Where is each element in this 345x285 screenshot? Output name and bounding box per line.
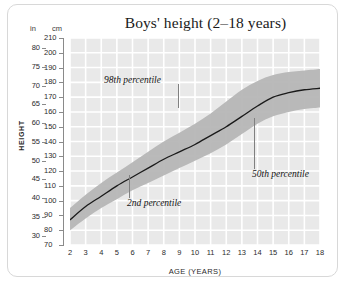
y-tick-label-in: 40 <box>24 194 40 202</box>
x-tick-label: 16 <box>282 248 296 257</box>
y-tick-label-cm: 200 <box>44 49 59 57</box>
unit-label-centimeters: cm <box>52 24 62 33</box>
y-tick-cm <box>59 215 64 216</box>
y-tick-cm <box>59 127 64 128</box>
y-tick-cm <box>59 142 64 143</box>
x-tick-label: 2 <box>63 248 77 257</box>
y-tick-cm <box>59 156 64 157</box>
unit-label-inches: in <box>30 24 36 33</box>
chart-card: Boys' height (2–18 years) in cm HEIGHT A… <box>7 4 338 277</box>
y-tick-label-cm: 90 <box>44 211 59 219</box>
y-tick-label-cm: 210 <box>44 34 59 42</box>
annotation-50th-percentile: 50th percentile <box>252 169 309 179</box>
x-tick-label: 5 <box>110 248 124 257</box>
x-tick-label: 6 <box>126 248 140 257</box>
y-tick-in <box>42 48 46 49</box>
y-tick-in <box>42 142 46 143</box>
x-tick-label: 10 <box>188 248 202 257</box>
y-tick-label-cm: 120 <box>44 167 59 175</box>
y-tick-in <box>42 198 46 199</box>
y-tick-label-cm: 70 <box>44 241 59 249</box>
y-tick-in <box>42 104 46 105</box>
y-tick-in <box>42 67 46 68</box>
x-tick-label: 12 <box>219 248 233 257</box>
y-tick-in <box>42 179 46 180</box>
y-tick-label-in: 70 <box>24 82 40 90</box>
y-tick-label-in: 80 <box>24 44 40 52</box>
y-tick-in <box>42 86 46 87</box>
x-tick-label: 3 <box>79 248 93 257</box>
y-tick-cm <box>59 201 64 202</box>
y-tick-label-in: 75 <box>24 63 40 71</box>
x-tick-label: 18 <box>313 248 327 257</box>
y-tick-label-cm: 190 <box>44 64 59 72</box>
x-tick-label: 7 <box>141 248 155 257</box>
y-tick-cm <box>59 230 64 231</box>
y-tick-in <box>42 217 46 218</box>
y-tick-label-cm: 170 <box>44 93 59 101</box>
annotation-98th-percentile: 98th percentile <box>104 75 161 85</box>
y-tick-label-in: 30 <box>24 232 40 240</box>
y-tick-cm <box>59 38 64 39</box>
y-tick-label-cm: 160 <box>44 108 59 116</box>
x-tick-label: 17 <box>297 248 311 257</box>
y-tick-cm <box>59 245 64 246</box>
x-tick-label: 9 <box>172 248 186 257</box>
plot-area <box>70 38 320 245</box>
x-tick-label: 4 <box>94 248 108 257</box>
y-tick-label-cm: 130 <box>44 152 59 160</box>
y-tick-cm <box>59 171 64 172</box>
leader-line-98th <box>178 84 179 108</box>
y-tick-cm <box>59 82 64 83</box>
x-axis-title: AGE (YEARS) <box>70 267 320 276</box>
growth-chart-svg <box>70 38 320 245</box>
y-tick-cm <box>59 68 64 69</box>
y-tick-label-cm: 100 <box>44 197 59 205</box>
y-tick-label-in: 35 <box>24 213 40 221</box>
leader-line-2nd <box>129 175 130 198</box>
y-tick-label-in: 45 <box>24 175 40 183</box>
y-tick-label-cm: 180 <box>44 78 59 86</box>
y-tick-cm <box>59 97 64 98</box>
x-tick-label: 15 <box>266 248 280 257</box>
x-tick-label: 13 <box>235 248 249 257</box>
y-tick-in <box>42 123 46 124</box>
y-tick-label-cm: 110 <box>44 182 59 190</box>
leader-line-50th <box>254 118 255 169</box>
y-tick-label-cm: 140 <box>44 138 59 146</box>
y-tick-label-in: 50 <box>24 157 40 165</box>
y-tick-cm <box>59 53 64 54</box>
x-tick-label: 8 <box>157 248 171 257</box>
y-tick-label-in: 60 <box>24 119 40 127</box>
annotation-2nd-percentile: 2nd percentile <box>127 198 181 208</box>
y-tick-in <box>42 236 46 237</box>
y-tick-cm <box>59 186 64 187</box>
y-tick-in <box>42 161 46 162</box>
x-tick-label: 11 <box>204 248 218 257</box>
y-tick-label-in: 65 <box>24 100 40 108</box>
chart-title: Boys' height (2–18 years) <box>68 14 343 32</box>
y-tick-cm <box>59 112 64 113</box>
y-tick-label-cm: 80 <box>44 226 59 234</box>
x-tick-label: 14 <box>251 248 265 257</box>
y-tick-label-cm: 150 <box>44 123 59 131</box>
y-tick-label-in: 55 <box>24 138 40 146</box>
